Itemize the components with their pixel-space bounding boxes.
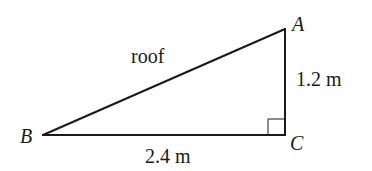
vertex-label-a: A	[290, 13, 305, 35]
hypotenuse-label: roof	[131, 45, 165, 67]
triangle-diagram: A B C roof 1.2 m 2.4 m	[0, 0, 372, 171]
vertex-label-c: C	[290, 132, 304, 154]
vertical-side-label: 1.2 m	[296, 68, 342, 90]
horizontal-side-label: 2.4 m	[145, 145, 191, 167]
right-angle-marker	[268, 119, 285, 135]
vertex-label-b: B	[20, 125, 32, 147]
